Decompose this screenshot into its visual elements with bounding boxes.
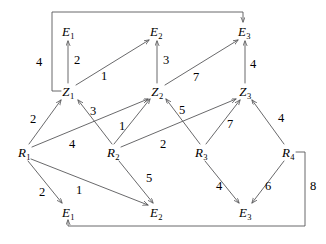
edge-weight-r3-z2: 5 — [179, 104, 185, 117]
edge-weight-r3-z3: 7 — [227, 118, 233, 131]
node-E2-top: E2 — [150, 25, 162, 38]
edge-weight-r2-z1: 3 — [90, 105, 96, 118]
edge-weight-r2-z2: 1 — [119, 120, 125, 133]
edge-weight-r4-e1: 8 — [310, 180, 316, 193]
node-E1-bottom: E1 — [62, 206, 74, 219]
edge-weight-z2-e2: 3 — [163, 54, 169, 67]
edge-r1-e2 — [31, 159, 148, 205]
node-E1-top: E1 — [62, 25, 74, 38]
edge-weight-r1-e2: 1 — [76, 184, 82, 197]
edge-weight-r1-z2: 4 — [69, 138, 75, 151]
edge-weight-r1-z1: 2 — [30, 113, 36, 126]
node-Z2: Z2 — [151, 85, 162, 98]
node-E3-top: E3 — [238, 25, 250, 38]
node-Z3: Z3 — [239, 85, 250, 98]
edge-weight-r2-z3: 2 — [160, 138, 166, 151]
node-E3-bottom: E3 — [239, 206, 251, 219]
edge-weight-z1-e2: 1 — [101, 70, 107, 83]
node-E2-bottom: E2 — [150, 206, 162, 219]
edge-weight-r4-e3: 6 — [265, 180, 271, 193]
node-R2: R2 — [107, 146, 119, 159]
edge-weight-z1-e3: 4 — [36, 56, 42, 69]
edge-weight-z3-e3: 4 — [250, 58, 256, 71]
graph-diagram: E1 E2 E3 Z1 Z2 Z3 R1 R2 R3 R4 E1 E2 E3 2… — [0, 0, 326, 244]
edge-weight-r3-e3: 4 — [216, 180, 222, 193]
edge-z1-e2 — [76, 40, 149, 85]
edge-weight-r4-z3: 4 — [278, 112, 284, 125]
edge-weight-z2-e3: 7 — [193, 71, 199, 84]
edge-z2-e3 — [165, 40, 238, 85]
node-R4: R4 — [282, 146, 294, 159]
node-R3: R3 — [195, 146, 207, 159]
edge-weight-r1-e1: 2 — [39, 186, 45, 199]
node-R1: R1 — [18, 146, 30, 159]
edge-weight-r2-e2: 5 — [146, 172, 152, 185]
node-Z1: Z1 — [62, 85, 73, 98]
edge-weight-z1-e1: 2 — [74, 54, 80, 67]
edge-r3-z3 — [206, 100, 240, 144]
edge-z1-e3 — [52, 12, 243, 91]
